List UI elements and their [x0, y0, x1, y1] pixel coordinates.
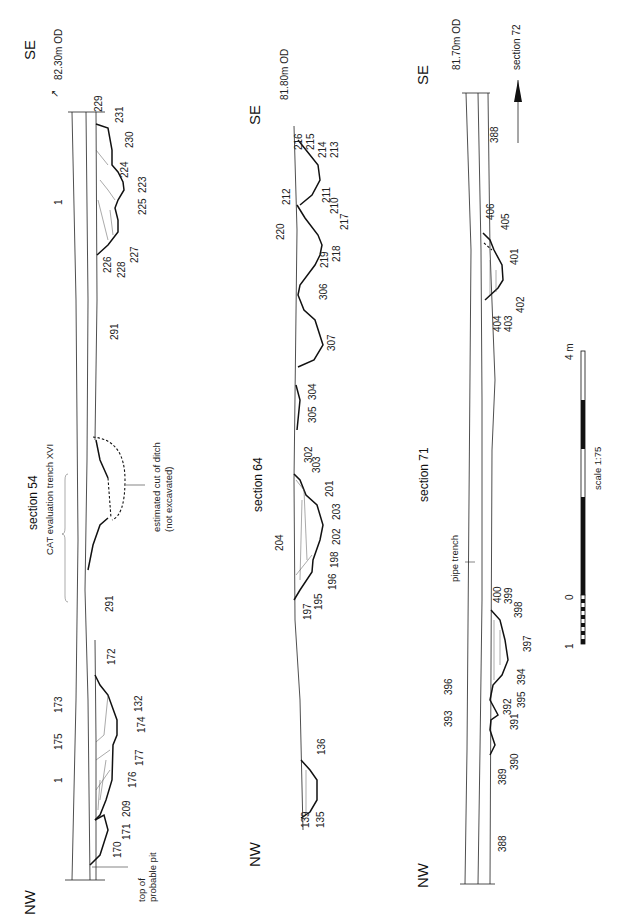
svg-text:213: 213	[329, 141, 340, 158]
nw-label: NW	[246, 841, 263, 867]
ditch-note-1: estimated cut of ditch	[151, 442, 162, 532]
section-72-label: section 72	[511, 24, 522, 70]
svg-text:215: 215	[305, 133, 316, 150]
section-71: SE NW 81.70m OD section 72 section 71 pi…	[414, 19, 533, 888]
section-title: section 64	[251, 457, 265, 512]
svg-text:174: 174	[136, 716, 147, 733]
se-label: SE	[246, 105, 263, 125]
svg-text:209: 209	[121, 800, 132, 817]
scale-tick-end: 4 m	[564, 343, 575, 360]
pipe-trench-label: pipe trench	[449, 535, 460, 582]
svg-text:392: 392	[502, 698, 513, 715]
svg-text:139: 139	[300, 811, 311, 828]
svg-text:223: 223	[137, 176, 148, 193]
layer-1-line	[85, 112, 90, 880]
ditch-201	[294, 474, 323, 600]
svg-text:216: 216	[293, 133, 304, 150]
layer-line	[478, 93, 482, 884]
svg-text:170: 170	[112, 841, 123, 858]
svg-text:195: 195	[313, 593, 324, 610]
feature-304-305	[296, 385, 300, 430]
svg-text:225: 225	[137, 198, 148, 215]
svg-text:398: 398	[513, 601, 524, 618]
svg-text:204: 204	[274, 534, 285, 551]
svg-text:218: 218	[331, 245, 342, 262]
pit-401	[483, 233, 503, 300]
pit-note-2: probable pit	[147, 852, 158, 902]
section-drawings: SE NW 82.30m OD ↗ section 54 CAT evaluat…	[0, 0, 629, 922]
svg-text:227: 227	[129, 246, 140, 263]
trench-note: CAT evaluation trench XVI	[44, 444, 55, 555]
svg-text:389: 389	[497, 768, 508, 785]
pit-170-cut	[90, 815, 108, 865]
svg-text:197: 197	[302, 603, 313, 620]
svg-text:393: 393	[443, 710, 454, 727]
svg-text:135: 135	[315, 811, 326, 828]
scale-tick-start: 1	[564, 643, 575, 649]
svg-text:406: 406	[485, 203, 496, 220]
pit-note-1: top of	[136, 878, 147, 902]
section-title: section 71	[417, 447, 431, 502]
svg-text:198: 198	[329, 551, 340, 568]
scale-tick-zero: 0	[564, 594, 575, 600]
svg-text:173: 173	[53, 696, 64, 713]
svg-text:291: 291	[104, 595, 115, 612]
svg-text:395: 395	[516, 691, 527, 708]
svg-text:305: 305	[307, 406, 318, 423]
svg-text:226: 226	[102, 256, 113, 273]
datum-label: 81.70m OD	[451, 19, 462, 70]
svg-text:214: 214	[317, 141, 328, 158]
svg-text:303: 303	[311, 456, 322, 473]
ditch-note-2: (not excavated)	[163, 467, 174, 532]
svg-text:177: 177	[134, 749, 145, 766]
feature-136	[301, 760, 317, 818]
svg-text:172: 172	[106, 648, 117, 665]
svg-text:217: 217	[339, 213, 350, 230]
svg-text:400: 400	[492, 586, 503, 603]
svg-text:405: 405	[500, 213, 511, 230]
svg-text:203: 203	[331, 503, 342, 520]
svg-text:220: 220	[275, 223, 286, 240]
nw-label: NW	[21, 889, 38, 915]
top-ground-line	[465, 93, 471, 884]
svg-text:230: 230	[124, 131, 135, 148]
svg-text:219: 219	[319, 251, 330, 268]
svg-text:196: 196	[327, 573, 338, 590]
se-label: SE	[414, 65, 431, 85]
svg-text:402: 402	[515, 296, 526, 313]
svg-text:403: 403	[503, 315, 514, 332]
nw-label: NW	[414, 862, 431, 888]
trench-bracket	[62, 474, 68, 602]
svg-text:229: 229	[93, 95, 104, 112]
datum-label: 82.30m OD	[53, 29, 64, 80]
features-389-400	[490, 610, 508, 755]
section-54: SE NW 82.30m OD ↗ section 54 CAT evaluat…	[21, 29, 174, 915]
svg-text:202: 202	[331, 528, 342, 545]
feature-cuts-nw	[95, 675, 117, 820]
svg-text:231: 231	[114, 106, 125, 123]
svg-text:404: 404	[492, 315, 503, 332]
svg-text:388: 388	[489, 126, 500, 143]
svg-text:132: 132	[133, 695, 144, 712]
section-64-context-labels: 216 215 214 213 212 211 210 217 220 218 …	[274, 133, 350, 828]
section-64: SE NW 81.80m OD section 64 216 215 214 2…	[246, 49, 350, 867]
svg-text:228: 228	[116, 261, 127, 278]
svg-text:394: 394	[516, 668, 527, 685]
svg-text:212: 212	[281, 188, 292, 205]
svg-text:396: 396	[443, 678, 454, 695]
svg-text:1: 1	[53, 199, 64, 205]
scale-label: scale 1:75	[592, 447, 603, 490]
datum-arrow-icon: ↗	[49, 90, 60, 98]
svg-text:390: 390	[509, 753, 520, 770]
scale-bar: 4 m 0 1 scale 1:75	[564, 343, 603, 649]
svg-text:391: 391	[509, 713, 520, 730]
svg-text:397: 397	[522, 635, 533, 652]
svg-text:201: 201	[324, 480, 335, 497]
svg-text:306: 306	[318, 283, 329, 300]
se-label: SE	[21, 40, 38, 60]
layer-291-line	[95, 112, 97, 880]
svg-text:1: 1	[53, 777, 64, 783]
svg-text:401: 401	[509, 248, 520, 265]
section-71-context-labels: 388 406 405 401 402 403 404 400 399 398 …	[443, 126, 533, 852]
svg-text:224: 224	[119, 161, 130, 178]
